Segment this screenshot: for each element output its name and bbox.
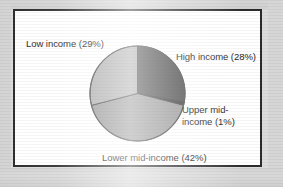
scan-margin-bottom <box>0 168 283 187</box>
pie-label-upper-mid-income-line2: income (1%) <box>182 116 235 127</box>
pie-label-lower-mid-income-text: Lower mid-income (42%) <box>102 152 207 163</box>
scanned-page: Low income (29%) High income (28%) Upper… <box>0 0 283 187</box>
pie-slice-group <box>90 46 185 141</box>
pie-label-upper-mid-income-line1: Upper mid- <box>182 104 229 115</box>
pie-label-upper-mid-income: Upper mid- income (1%) <box>182 104 252 127</box>
pie-label-lower-mid-income: Lower mid-income (42%) <box>102 152 207 164</box>
chart-canvas: Low income (29%) High income (28%) Upper… <box>15 11 260 165</box>
pie-label-low-income: Low income (29%) <box>26 38 104 50</box>
figure-frame: Low income (29%) High income (28%) Upper… <box>13 9 262 167</box>
pie-chart-svg <box>89 45 186 142</box>
pie-label-high-income-text: High income (28%) <box>176 51 256 62</box>
pie-label-high-income: High income (28%) <box>176 51 256 63</box>
scan-margin-left <box>0 0 11 187</box>
pie-label-low-income-text: Low income (29%) <box>26 38 104 49</box>
scan-margin-right <box>268 0 283 187</box>
scan-margin-top <box>0 0 283 9</box>
pie-chart <box>89 45 186 142</box>
